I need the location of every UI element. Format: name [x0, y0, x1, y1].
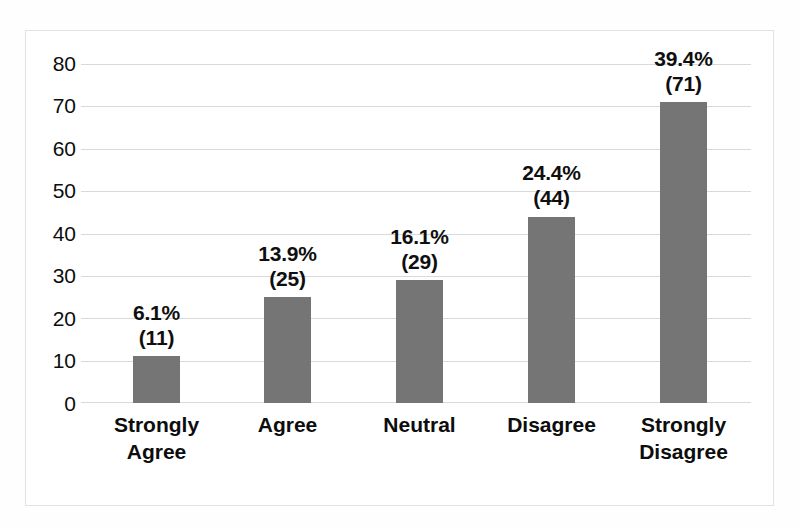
gridline-30	[81, 276, 751, 277]
category-axis: Strongly Agree Agree Neutral Disagree St…	[81, 411, 751, 491]
y-tick-label-50: 50	[30, 180, 76, 201]
gridline-50	[81, 191, 751, 192]
data-label-neutral: 16.1% (29)	[368, 224, 471, 274]
y-tick-label-20: 20	[30, 308, 76, 329]
data-label-agree: 13.9% (25)	[236, 241, 339, 291]
bar-disagree[interactable]	[528, 217, 575, 403]
bar-strongly-agree[interactable]	[133, 356, 180, 403]
data-label-strongly-disagree: 39.4% (71)	[632, 46, 735, 96]
y-tick-label-10: 10	[30, 350, 76, 371]
chart-page: 80 70 60 50 40 30 20 10 0	[0, 0, 801, 528]
category-label-strongly-disagree: Strongly Disagree	[623, 411, 744, 465]
y-tick-label-60: 60	[30, 138, 76, 159]
plot-area: 6.1% (11) 13.9% (25) 16.1% (29) 24.4% (4…	[81, 64, 751, 403]
bar-neutral[interactable]	[396, 280, 443, 403]
data-label-strongly-agree: 6.1% (11)	[106, 300, 207, 350]
category-label-strongly-agree: Strongly Agree	[96, 411, 217, 465]
y-tick-label-30: 30	[30, 265, 76, 286]
y-tick-label-40: 40	[30, 223, 76, 244]
y-tick-label-70: 70	[30, 95, 76, 116]
data-label-disagree: 24.4% (44)	[500, 160, 603, 210]
bar-strongly-disagree[interactable]	[660, 102, 707, 403]
bar-agree[interactable]	[264, 297, 311, 403]
y-tick-label-80: 80	[30, 53, 76, 74]
y-tick-label-0: 0	[30, 393, 76, 414]
category-label-neutral: Neutral	[368, 411, 471, 438]
y-axis: 80 70 60 50 40 30 20 10 0	[26, 64, 76, 403]
chart-frame: 80 70 60 50 40 30 20 10 0	[25, 30, 774, 506]
category-label-disagree: Disagree	[500, 411, 603, 438]
category-label-agree: Agree	[236, 411, 339, 438]
gridline-60	[81, 149, 751, 150]
gridline-70	[81, 106, 751, 107]
